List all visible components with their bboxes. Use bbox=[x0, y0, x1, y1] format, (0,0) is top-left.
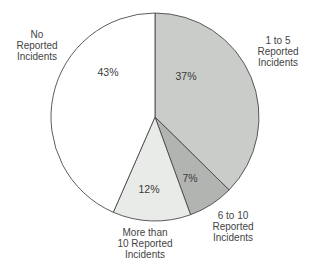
svg-text:More than: More than bbox=[122, 227, 167, 238]
svg-text:Incidents: Incidents bbox=[213, 232, 253, 243]
svg-text:Incidents: Incidents bbox=[125, 249, 165, 260]
pie-chart: 37% 7% 12% 43% 1 to 5 Reported Incidents… bbox=[0, 0, 310, 274]
svg-text:No: No bbox=[31, 29, 44, 40]
svg-text:Incidents: Incidents bbox=[17, 51, 57, 62]
slice-value-label-1-to-5: 37% bbox=[175, 70, 196, 82]
category-label-more-than-10: More than 10 Reported Incidents bbox=[117, 227, 172, 260]
svg-text:Incidents: Incidents bbox=[258, 57, 298, 68]
svg-text:Reported: Reported bbox=[257, 46, 298, 57]
svg-text:10 Reported: 10 Reported bbox=[117, 238, 172, 249]
svg-text:Reported: Reported bbox=[212, 221, 253, 232]
svg-text:Reported: Reported bbox=[16, 40, 57, 51]
svg-text:1 to 5: 1 to 5 bbox=[265, 35, 290, 46]
svg-text:6 to 10: 6 to 10 bbox=[218, 210, 249, 221]
slice-value-label-none: 43% bbox=[97, 66, 118, 78]
category-label-none: No Reported Incidents bbox=[16, 29, 57, 62]
category-label-6-to-10: 6 to 10 Reported Incidents bbox=[212, 210, 253, 243]
category-label-1-to-5: 1 to 5 Reported Incidents bbox=[257, 35, 298, 68]
slice-value-label-more-than-10: 12% bbox=[138, 183, 159, 195]
slice-value-label-6-to-10: 7% bbox=[182, 172, 197, 184]
